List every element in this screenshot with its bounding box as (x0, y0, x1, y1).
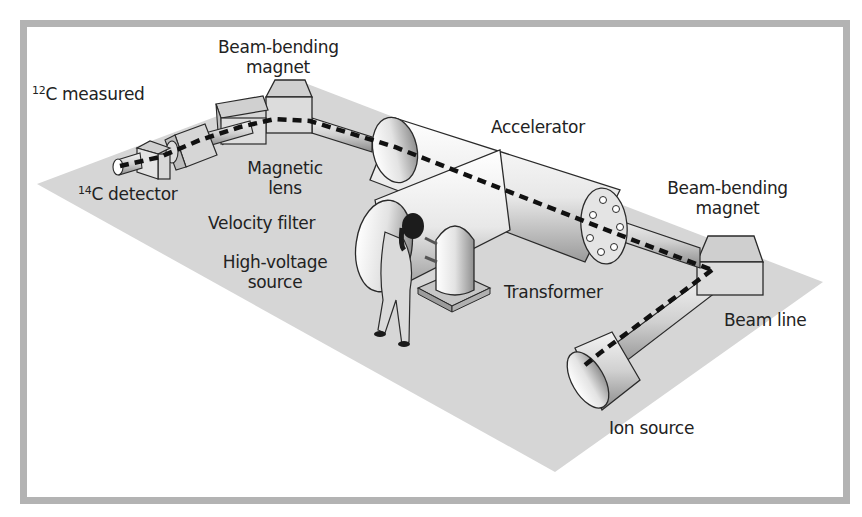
label-line: lens (240, 178, 330, 198)
label-c14-superscript: 14 (78, 184, 91, 197)
beam-bending-magnet-left (266, 80, 312, 133)
label-line: Magnetic (240, 158, 330, 178)
label-ion-source: Ion source (609, 418, 694, 438)
label-c12-text: C measured (45, 84, 144, 104)
label-beam-bending-magnet-right: Beam-bending magnet (665, 178, 790, 218)
label-c14-text: C detector (91, 184, 177, 204)
beam-bending-magnet-right (697, 236, 763, 295)
label-velocity-filter: Velocity filter (208, 213, 315, 233)
label-line: Beam-bending (665, 178, 790, 198)
label-line: magnet (665, 198, 790, 218)
label-line: Beam-bending (218, 37, 338, 57)
label-c12-measured: 12C measured (32, 84, 145, 104)
label-beam-bending-magnet-left: Beam-bending magnet (218, 37, 338, 77)
label-line: source (220, 272, 330, 292)
label-high-voltage-source: High-voltage source (220, 252, 330, 292)
label-accelerator: Accelerator (491, 117, 585, 137)
label-line: magnet (218, 57, 338, 77)
label-transformer: Transformer (504, 282, 603, 302)
label-beam-line: Beam line (724, 310, 806, 330)
label-c12-superscript: 12 (32, 84, 45, 97)
label-line: High-voltage (220, 252, 330, 272)
label-magnetic-lens: Magnetic lens (240, 158, 330, 198)
accelerator-illustration (0, 0, 862, 517)
diagram-stage: 12C measured Beam-bending magnet 14C det… (0, 0, 862, 517)
label-c14-detector: 14C detector (78, 184, 177, 204)
